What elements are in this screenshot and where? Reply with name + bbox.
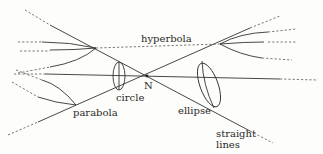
label-lines: lines <box>216 139 240 150</box>
ellipse-section <box>193 60 226 109</box>
label-circle: circle <box>116 92 144 103</box>
label-parabola: parabola <box>73 107 118 118</box>
hyperbola-right <box>220 29 296 60</box>
diagram-drawing <box>0 0 323 154</box>
parabola <box>12 70 76 105</box>
label-vertex-n: N <box>144 80 153 91</box>
hyperbola-left <box>18 42 96 73</box>
hyperbola-axis <box>96 44 220 48</box>
axis-line <box>14 74 318 80</box>
label-ellipse: ellipse <box>178 105 211 116</box>
conic-sections-diagram: hyperbola circle N ellipse parabola stra… <box>0 0 323 154</box>
label-straight: straight <box>216 128 256 139</box>
vertex-point <box>146 75 149 78</box>
label-hyperbola: hyperbola <box>141 33 192 44</box>
